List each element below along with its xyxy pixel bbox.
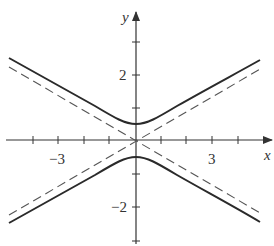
plot-canvas: y x −3 3 2 −2 — [0, 0, 274, 246]
x-axis-label: x — [263, 147, 271, 163]
x-tick-label-neg3: −3 — [49, 151, 65, 167]
hyperbola-graph: y x −3 3 2 −2 — [0, 0, 274, 246]
y-tick-label-2: 2 — [119, 67, 127, 83]
hyperbola-lower-branch — [9, 157, 260, 223]
y-tick-label-neg2: −2 — [111, 199, 127, 215]
x-tick-label-3: 3 — [208, 151, 216, 167]
y-axis-label: y — [120, 9, 129, 25]
